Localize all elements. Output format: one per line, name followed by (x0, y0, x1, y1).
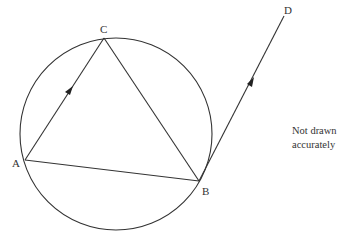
not-drawn-accurately-note: Not drawn accurately (292, 124, 337, 152)
segment-cb (104, 38, 199, 181)
label-d: D (284, 4, 292, 16)
circle (20, 38, 212, 230)
parallel-arrow-icon-ac (65, 86, 73, 95)
note-line-2: accurately (292, 138, 337, 152)
note-line-1: Not drawn (292, 124, 337, 138)
label-a: A (12, 157, 20, 169)
label-b: B (202, 185, 209, 197)
segment-ac (25, 38, 104, 160)
segment-bd (199, 16, 284, 181)
segment-ab (25, 160, 199, 181)
geometry-diagram: A B C D (0, 0, 355, 241)
label-c: C (100, 23, 107, 35)
